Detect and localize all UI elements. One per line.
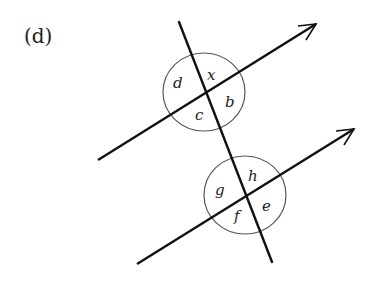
upper-parallel-line: [98, 24, 316, 160]
angle-label-d: d: [173, 74, 183, 92]
upper-angle-circle: [163, 53, 245, 131]
angle-label-x: x: [207, 66, 216, 84]
angle-label-c: c: [195, 106, 204, 124]
angle-label-b: b: [225, 93, 235, 111]
parallel-lines-diagram: x d b c h g e f: [0, 0, 375, 286]
lower-parallel-line: [137, 129, 354, 264]
angle-label-f: f: [233, 207, 242, 225]
angle-label-e: e: [262, 197, 271, 215]
angle-label-h: h: [248, 167, 258, 185]
diagram-canvas: (d) x d b c h g e f: [0, 0, 375, 286]
angle-label-g: g: [215, 181, 225, 199]
